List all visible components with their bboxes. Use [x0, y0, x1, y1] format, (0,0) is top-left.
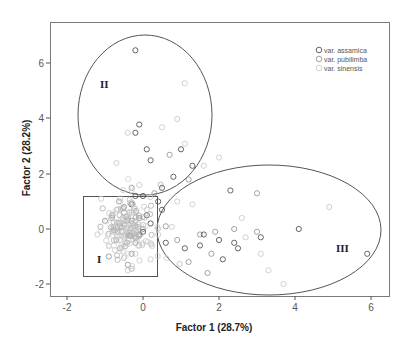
data-point	[258, 251, 263, 256]
data-point	[175, 116, 180, 121]
data-point	[178, 147, 183, 152]
data-point	[159, 185, 164, 190]
data-point	[235, 246, 240, 251]
data-point	[327, 204, 332, 209]
data-point	[112, 248, 117, 253]
data-point	[100, 206, 105, 211]
x-axis: -2 0 2 4 6 Factor 1 (28.7%)	[63, 296, 375, 333]
x-tick-label: 4	[292, 302, 298, 313]
data-point	[126, 177, 131, 182]
data-point	[126, 251, 131, 256]
data-point	[175, 237, 180, 242]
region-label-iii: III	[336, 242, 349, 254]
data-point	[243, 235, 248, 240]
data-point	[220, 257, 225, 262]
data-point	[159, 125, 164, 130]
data-point	[98, 224, 103, 229]
data-point	[186, 259, 191, 264]
legend-label: var. assamica	[324, 47, 367, 54]
data-point	[232, 226, 237, 231]
data-point	[201, 232, 206, 237]
data-point	[148, 158, 153, 163]
data-point	[177, 261, 182, 266]
data-point	[258, 235, 263, 240]
data-point	[182, 81, 187, 86]
data-point	[232, 240, 237, 245]
data-point	[182, 141, 187, 146]
y-axis-title: Factor 2 (28.2%)	[21, 120, 32, 197]
data-point	[148, 203, 153, 208]
data-point	[121, 256, 126, 261]
cluster-ii-ellipse	[78, 35, 212, 195]
legend-marker-sinensis	[316, 65, 322, 71]
data-point	[163, 240, 168, 245]
data-point	[201, 163, 206, 168]
region-label-i: I	[97, 253, 101, 265]
data-point	[209, 251, 214, 256]
scatter-chart: I II III -2 0 2 4 6 Factor 1 (28.7%) 6 4…	[0, 0, 408, 350]
legend-marker-pubilimba	[316, 56, 322, 62]
legend-label: var. sinensis	[324, 65, 363, 72]
y-tick-label: 0	[38, 224, 44, 235]
data-point	[169, 224, 174, 229]
data-point	[122, 205, 127, 210]
y-axis: 6 4 2 0 -2 Factor 2 (28.2%)	[21, 58, 50, 290]
data-point	[148, 221, 153, 226]
annotation-shapes	[78, 35, 381, 295]
data-point	[266, 268, 271, 273]
data-point	[216, 155, 221, 160]
data-point	[144, 207, 149, 212]
data-point	[111, 243, 116, 248]
data-point	[105, 233, 110, 238]
y-tick-label: 4	[38, 113, 44, 124]
data-point	[190, 163, 195, 168]
x-axis-title: Factor 1 (28.7%)	[176, 322, 253, 333]
data-point	[216, 237, 221, 242]
data-point	[133, 48, 138, 53]
data-point	[365, 251, 370, 256]
region-label-ii: II	[100, 78, 109, 90]
data-points	[95, 48, 370, 287]
data-point	[163, 224, 168, 229]
data-point	[114, 160, 119, 165]
x-tick-label: 6	[368, 302, 374, 313]
data-point	[148, 257, 153, 262]
data-point	[98, 229, 103, 234]
x-tick-label: 0	[140, 302, 146, 313]
data-point	[239, 215, 244, 220]
data-point	[158, 182, 163, 187]
data-point	[148, 195, 153, 200]
data-point	[106, 254, 111, 259]
y-tick-label: -2	[35, 279, 44, 290]
legend-marker-assamica	[316, 47, 322, 53]
y-tick-label: 2	[38, 169, 44, 180]
data-point	[228, 188, 233, 193]
data-point	[149, 232, 154, 237]
data-point	[254, 191, 259, 196]
data-point	[137, 182, 142, 187]
data-point	[156, 232, 161, 237]
data-point	[156, 199, 161, 204]
data-point	[141, 204, 146, 209]
data-point	[197, 243, 202, 248]
data-point	[296, 226, 301, 231]
data-point	[281, 281, 286, 286]
data-point	[137, 122, 142, 127]
data-point	[175, 199, 180, 204]
data-point	[171, 174, 176, 179]
data-point	[182, 246, 187, 251]
y-tick-label: 6	[38, 58, 44, 69]
data-point	[133, 130, 138, 135]
data-point	[167, 152, 172, 157]
cluster-iii-ellipse	[157, 165, 381, 295]
x-tick-label: 2	[216, 302, 222, 313]
data-point	[152, 191, 157, 196]
data-point	[205, 270, 210, 275]
data-point	[144, 147, 149, 152]
data-point	[254, 229, 259, 234]
data-point	[125, 130, 130, 135]
data-point	[104, 238, 109, 243]
data-point	[186, 177, 191, 182]
data-point	[190, 202, 195, 207]
data-point	[95, 232, 100, 237]
